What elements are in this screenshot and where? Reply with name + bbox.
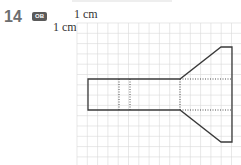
shape-outline <box>88 47 232 142</box>
grid-lines <box>77 23 241 165</box>
grid-diagram <box>0 0 241 165</box>
